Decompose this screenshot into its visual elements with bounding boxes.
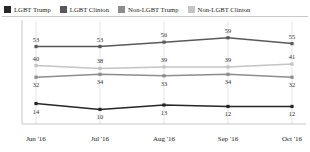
legend-item-lgbt-clinton[interactable]: LGBT Clinton xyxy=(60,6,109,13)
line-chart: LGBT Trump LGBT Clinton Non-LGBT Trump N… xyxy=(0,0,310,152)
x-axis-tick-label: Sep '16 xyxy=(218,135,239,144)
data-point-label: 56 xyxy=(161,31,167,38)
legend-swatch-icon xyxy=(60,6,67,13)
data-point-label: 53 xyxy=(97,36,103,43)
data-point-label: 33 xyxy=(161,80,167,87)
data-point-label: 12 xyxy=(225,110,231,117)
data-point-label: 32 xyxy=(289,81,295,88)
x-axis-tick-label: Jun '16 xyxy=(26,135,46,144)
x-axis-tick-label: Jul '16 xyxy=(91,135,109,144)
legend-swatch-icon xyxy=(118,6,125,13)
legend-divider xyxy=(2,16,308,17)
legend-item-non-lgbt-trump[interactable]: Non-LGBT Trump xyxy=(118,6,179,13)
data-point-label: 40 xyxy=(33,55,39,62)
x-axis-tick-label: Oct '16 xyxy=(282,135,302,144)
data-point-label: 55 xyxy=(289,33,295,40)
data-point-label: 34 xyxy=(225,78,231,85)
legend-swatch-icon xyxy=(4,6,11,13)
legend-label: Non-LGBT Clinton xyxy=(198,6,251,13)
data-point-label: 32 xyxy=(33,81,39,88)
data-point-label: 39 xyxy=(225,56,231,63)
data-point-label: 12 xyxy=(289,110,295,117)
data-point-label: 39 xyxy=(161,56,167,63)
x-axis-tick-label: Aug '16 xyxy=(153,135,175,144)
data-point-label: 53 xyxy=(33,36,39,43)
legend-label: Non-LGBT Trump xyxy=(128,6,179,13)
legend-swatch-icon xyxy=(188,6,195,13)
data-point-label: 13 xyxy=(161,109,167,116)
legend-label: LGBT Trump xyxy=(14,6,51,13)
data-point-label: 38 xyxy=(97,57,103,64)
chart-legend: LGBT Trump LGBT Clinton Non-LGBT Trump N… xyxy=(4,2,306,16)
data-point-label: 34 xyxy=(97,78,103,85)
data-point-label: 59 xyxy=(225,27,231,34)
x-axis-labels: Jun '16Jul '16Aug '16Sep '16Oct '16 xyxy=(0,133,310,149)
legend-label: LGBT Clinton xyxy=(70,6,109,13)
legend-item-lgbt-trump[interactable]: LGBT Trump xyxy=(4,6,51,13)
data-point-label: 14 xyxy=(33,108,39,115)
data-point-label: 41 xyxy=(289,53,295,60)
data-point-label: 10 xyxy=(97,113,103,120)
legend-item-non-lgbt-clinton[interactable]: Non-LGBT Clinton xyxy=(188,6,251,13)
data-labels-layer: 1410131212535356595532343334324038393941 xyxy=(0,18,310,134)
